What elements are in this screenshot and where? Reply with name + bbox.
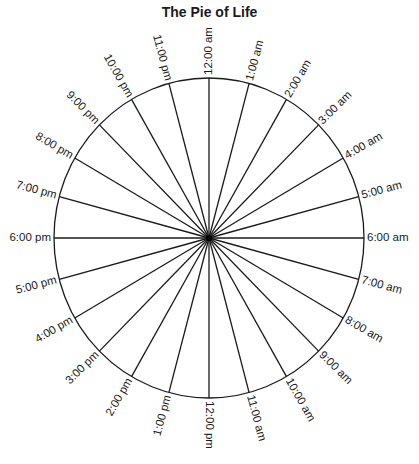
spoke-line xyxy=(209,238,249,393)
hour-label: 2:00 pm xyxy=(103,376,134,418)
spoke-line xyxy=(59,238,209,279)
spoke-line xyxy=(75,238,209,318)
hour-label: 10:00 pm xyxy=(102,52,136,100)
hour-label: 1:00 pm xyxy=(151,394,173,437)
pie-center-dot xyxy=(206,235,212,241)
spoke-line xyxy=(99,125,209,238)
spoke-line xyxy=(132,238,210,377)
spoke-line xyxy=(169,83,209,238)
hour-label: 3:00 am xyxy=(316,88,354,126)
spoke-line xyxy=(209,238,359,279)
spoke-line xyxy=(99,238,209,351)
hour-label: 11:00 am xyxy=(245,394,269,443)
spoke-line xyxy=(132,99,210,238)
spoke-line xyxy=(209,83,249,238)
hour-label: 7:00 pm xyxy=(15,178,58,200)
hour-label: 9:00 am xyxy=(317,348,355,386)
hour-label: 8:00 am xyxy=(343,313,385,344)
hour-label: 4:00 am xyxy=(342,130,384,161)
hour-label: 7:00 am xyxy=(360,273,403,295)
spoke-line xyxy=(169,238,209,393)
spoke-line xyxy=(209,238,287,377)
hour-label: 9:00 pm xyxy=(64,88,102,126)
hour-label: 2:00 am xyxy=(282,57,313,99)
hour-label: 1:00 am xyxy=(243,39,265,82)
hour-label: 12:00 pm xyxy=(204,401,216,449)
hour-label: 5:00 pm xyxy=(14,273,57,295)
hour-label: 12:00 am xyxy=(202,27,214,75)
hour-label: 10:00 am xyxy=(284,376,318,424)
spoke-line xyxy=(209,197,359,238)
hour-label: 6:00 pm xyxy=(9,231,51,243)
spoke-line xyxy=(209,125,319,238)
hour-label: 5:00 am xyxy=(360,178,403,200)
spoke-line xyxy=(209,238,343,318)
spoke-line xyxy=(209,158,343,238)
spoke-line xyxy=(59,197,209,238)
hour-label: 6:00 am xyxy=(367,231,409,243)
spoke-line xyxy=(209,99,287,238)
hour-label: 8:00 pm xyxy=(34,130,76,161)
hour-label: 3:00 pm xyxy=(63,348,101,386)
hour-label: 4:00 pm xyxy=(33,313,75,344)
spoke-line xyxy=(209,238,319,351)
hour-label: 11:00 pm xyxy=(151,33,175,82)
pie-of-life-diagram: 12:00 am1:00 am2:00 am3:00 am4:00 am5:00… xyxy=(0,0,419,464)
spoke-line xyxy=(75,158,209,238)
